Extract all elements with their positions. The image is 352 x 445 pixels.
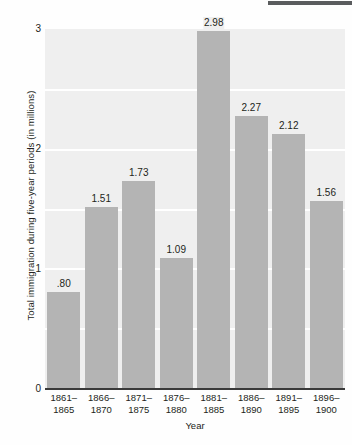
bar[interactable]: 1.73 xyxy=(122,181,155,388)
x-tick-label: 1896– 1900 xyxy=(308,392,346,418)
bar[interactable]: 2.27 xyxy=(235,116,268,388)
bar-value-label: .80 xyxy=(56,278,72,290)
x-tick-label: 1866– 1870 xyxy=(83,392,121,418)
x-tick-line2: 1890 xyxy=(233,404,271,416)
bar-value-label: 2.27 xyxy=(241,102,262,114)
bar[interactable]: .80 xyxy=(47,292,80,388)
page-top-rule xyxy=(268,1,352,5)
immigration-bar-chart-figure: Total immigration during five-year perio… xyxy=(0,0,352,445)
x-tick-line1: 1891– xyxy=(270,392,308,404)
bar[interactable]: 2.12 xyxy=(272,134,305,388)
y-tick-label-1: 1 xyxy=(7,264,41,274)
x-tick-line2: 1875 xyxy=(120,404,158,416)
bar[interactable]: 2.98 xyxy=(197,31,230,388)
x-tick-line2: 1870 xyxy=(83,404,121,416)
y-tick-label-0: 0 xyxy=(7,384,41,394)
x-tick-line1: 1886– xyxy=(233,392,271,404)
x-tick-line2: 1880 xyxy=(158,404,196,416)
x-tick-label: 1891– 1895 xyxy=(270,392,308,418)
bar-value-label: 1.09 xyxy=(166,244,187,256)
bar-slot: 1.56 xyxy=(308,29,346,388)
x-tick-line2: 1865 xyxy=(45,404,83,416)
bar-slot: 2.98 xyxy=(195,29,233,388)
x-tick-line2: 1900 xyxy=(308,404,346,416)
x-tick-line1: 1861– xyxy=(45,392,83,404)
x-tick-label: 1886– 1890 xyxy=(233,392,271,418)
y-tick-label-3: 3 xyxy=(7,24,41,34)
x-tick-label: 1871– 1875 xyxy=(120,392,158,418)
bar-value-label: 2.12 xyxy=(278,120,299,132)
bar-slot: 1.73 xyxy=(120,29,158,388)
x-tick-line1: 1876– xyxy=(158,392,196,404)
bar-value-label: 1.56 xyxy=(316,187,337,199)
x-tick-line2: 1885 xyxy=(195,404,233,416)
x-tick-line2: 1895 xyxy=(270,404,308,416)
bar[interactable]: 1.56 xyxy=(310,201,343,388)
bar-slot: 1.09 xyxy=(158,29,196,388)
x-tick-line1: 1866– xyxy=(83,392,121,404)
y-axis-tick-labels: 3 2 1 0 xyxy=(0,0,41,445)
bar-series: .80 1.51 1.73 1.09 2.98 xyxy=(45,29,345,388)
bar-slot: 2.27 xyxy=(233,29,271,388)
bar-value-label: 1.73 xyxy=(128,167,149,179)
x-tick-line1: 1881– xyxy=(195,392,233,404)
x-tick-line1: 1896– xyxy=(308,392,346,404)
bar-value-label: 1.51 xyxy=(91,193,112,205)
bar[interactable]: 1.09 xyxy=(160,258,193,388)
y-tick-label-2: 2 xyxy=(7,144,41,154)
plot-area: .80 1.51 1.73 1.09 2.98 xyxy=(45,29,345,388)
x-axis-title: Year xyxy=(45,420,345,431)
x-tick-line1: 1871– xyxy=(120,392,158,404)
x-axis-tick-labels: 1861– 1865 1866– 1870 1871– 1875 1876– 1… xyxy=(45,392,345,418)
bar[interactable]: 1.51 xyxy=(85,207,118,388)
x-tick-label: 1861– 1865 xyxy=(45,392,83,418)
x-axis-line xyxy=(45,388,345,390)
bar-slot: 2.12 xyxy=(270,29,308,388)
bar-slot: .80 xyxy=(45,29,83,388)
x-tick-label: 1876– 1880 xyxy=(158,392,196,418)
bar-slot: 1.51 xyxy=(83,29,121,388)
bar-value-label: 2.98 xyxy=(203,17,224,29)
x-tick-label: 1881– 1885 xyxy=(195,392,233,418)
